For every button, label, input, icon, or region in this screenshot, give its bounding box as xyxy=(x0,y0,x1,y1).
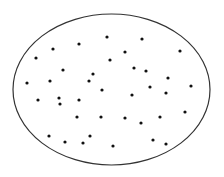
dot xyxy=(81,141,84,144)
dot xyxy=(183,110,186,113)
dot xyxy=(100,88,103,91)
dot xyxy=(36,98,39,101)
dot xyxy=(158,115,161,118)
dot xyxy=(99,115,102,118)
dot xyxy=(47,134,50,137)
dot xyxy=(139,121,142,124)
diagram-svg xyxy=(0,0,224,177)
dot xyxy=(58,102,61,105)
dot xyxy=(178,49,181,52)
dot xyxy=(61,68,64,71)
dot xyxy=(75,115,78,118)
background xyxy=(0,0,224,177)
dot xyxy=(57,96,60,99)
dot xyxy=(189,84,192,87)
dot xyxy=(166,76,169,79)
dot xyxy=(164,142,167,145)
dot xyxy=(87,79,90,82)
dot xyxy=(91,72,94,75)
dot xyxy=(144,69,147,72)
dot xyxy=(51,47,54,50)
dot xyxy=(148,85,151,88)
dot xyxy=(105,35,108,38)
dot xyxy=(123,116,126,119)
dot xyxy=(34,56,37,59)
dot xyxy=(63,140,66,143)
dot xyxy=(164,91,167,94)
dot xyxy=(77,42,80,45)
dot xyxy=(108,58,111,61)
dot xyxy=(77,98,80,101)
dot xyxy=(130,93,133,96)
dot xyxy=(123,50,126,53)
dot xyxy=(48,79,51,82)
dot xyxy=(151,138,154,141)
dot xyxy=(140,37,143,40)
ellipse-dot-diagram xyxy=(0,0,224,177)
dot xyxy=(132,66,135,69)
dot xyxy=(25,81,28,84)
dot xyxy=(111,144,114,147)
dot xyxy=(88,134,91,137)
